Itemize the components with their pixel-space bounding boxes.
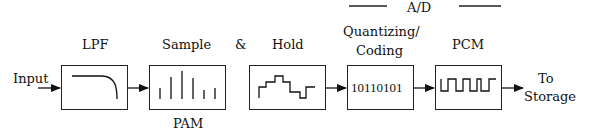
sampled-pulses-icon — [160, 71, 215, 99]
square-wave-icon — [441, 79, 496, 91]
staircase-waveform-icon — [259, 76, 315, 98]
diagram-graphics — [0, 0, 589, 133]
lowpass-response-icon — [72, 76, 117, 99]
